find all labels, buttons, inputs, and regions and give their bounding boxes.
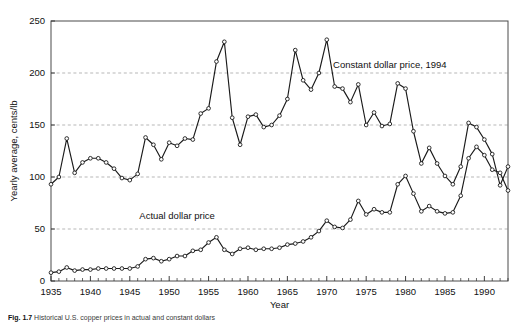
data-point: [506, 165, 510, 169]
data-point: [388, 122, 392, 126]
data-point: [183, 137, 187, 141]
x-axis-tick-labels: 1935194019451950195519601965197019751980…: [40, 286, 495, 297]
data-point: [490, 152, 494, 156]
data-point: [49, 271, 53, 275]
data-point: [483, 138, 487, 142]
data-point: [435, 209, 439, 213]
data-point: [128, 178, 132, 182]
data-point: [443, 174, 447, 178]
data-point: [159, 259, 163, 263]
data-point: [427, 146, 431, 150]
data-point: [152, 256, 156, 260]
data-point: [293, 48, 297, 52]
data-point: [89, 156, 93, 160]
data-point: [475, 125, 479, 129]
data-point: [65, 266, 69, 270]
figure-caption-text: Historical U.S. copper prices in actual …: [34, 314, 215, 321]
data-point: [152, 143, 156, 147]
data-point: [144, 257, 148, 261]
data-point: [81, 268, 85, 272]
data-point: [73, 171, 77, 175]
data-point: [286, 243, 290, 247]
data-point: [96, 156, 100, 160]
data-point: [309, 88, 313, 92]
data-point: [191, 249, 195, 253]
x-tick-label: 1970: [316, 286, 337, 297]
data-point: [222, 248, 226, 252]
data-point: [419, 209, 423, 213]
data-point: [167, 257, 171, 261]
data-point: [207, 107, 211, 111]
data-point: [254, 248, 258, 252]
data-point: [128, 267, 132, 271]
data-point: [317, 71, 321, 75]
data-point: [175, 254, 179, 258]
data-point: [144, 136, 148, 140]
x-tick-label: 1940: [80, 286, 101, 297]
data-point: [199, 112, 203, 116]
data-point: [199, 248, 203, 252]
data-point: [57, 175, 61, 179]
data-point: [317, 229, 321, 233]
figure-caption-label: Fig. 1.7: [8, 314, 32, 321]
data-point: [230, 116, 234, 120]
copper-price-chart: 1935194019451950195519601965197019751980…: [0, 0, 532, 325]
y-tick-label: 150: [29, 119, 45, 130]
data-point: [467, 156, 471, 160]
data-point: [459, 165, 463, 169]
data-point: [506, 189, 510, 193]
data-point: [380, 124, 384, 128]
data-point: [246, 246, 250, 250]
data-point: [404, 174, 408, 178]
y-tick-label: 250: [29, 15, 45, 26]
data-point: [49, 182, 53, 186]
figure-container: 1935194019451950195519601965197019751980…: [0, 0, 532, 325]
data-point: [364, 213, 368, 217]
y-tick-label: 100: [29, 171, 45, 182]
data-point: [81, 161, 85, 165]
data-point: [451, 211, 455, 215]
y-axis-title: Yearly average, cents/lb: [8, 100, 19, 201]
data-point: [349, 100, 353, 104]
x-tick-label: 1990: [474, 286, 495, 297]
x-tick-label: 1950: [159, 286, 180, 297]
data-point: [372, 207, 376, 211]
data-point: [159, 157, 163, 161]
data-point: [246, 115, 250, 119]
data-point: [293, 242, 297, 246]
x-tick-label: 1945: [119, 286, 140, 297]
x-axis-title: Year: [270, 299, 289, 310]
data-point: [262, 247, 266, 251]
x-tick-label: 1935: [40, 286, 61, 297]
data-point: [207, 241, 211, 245]
data-point: [270, 247, 274, 251]
data-point: [120, 267, 124, 271]
data-point: [96, 267, 100, 271]
data-point: [278, 114, 282, 118]
data-point: [104, 267, 108, 271]
data-point: [459, 194, 463, 198]
data-point: [112, 267, 116, 271]
data-point: [467, 121, 471, 125]
figure-caption: Fig. 1.7 Historical U.S. copper prices i…: [8, 313, 524, 322]
data-point: [412, 129, 416, 133]
y-axis-tick-labels: 050100150200250: [29, 15, 45, 286]
data-point: [270, 123, 274, 127]
data-point: [443, 212, 447, 216]
x-tick-label: 1985: [434, 286, 455, 297]
y-tick-label: 0: [40, 275, 45, 286]
data-point: [372, 111, 376, 115]
data-point: [341, 226, 345, 230]
data-point: [89, 268, 93, 272]
data-point: [341, 87, 345, 91]
data-point: [112, 167, 116, 171]
data-point: [419, 162, 423, 166]
data-point: [136, 172, 140, 176]
series-label: Actual dollar price: [139, 210, 215, 221]
y-tick-label: 50: [34, 223, 45, 234]
data-point: [57, 270, 61, 274]
x-tick-label: 1980: [395, 286, 416, 297]
data-point: [490, 168, 494, 172]
data-point: [215, 235, 219, 239]
data-point: [356, 83, 360, 87]
